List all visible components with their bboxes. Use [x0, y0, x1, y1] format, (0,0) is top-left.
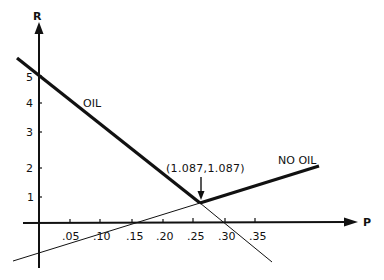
- no-oil-label: NO OIL: [278, 154, 317, 167]
- y-tick-labels: 1 2 3 4 5: [26, 71, 34, 204]
- x-axis: [23, 222, 346, 223]
- x-tick-label: .15: [126, 230, 144, 243]
- y-tick-label: 1: [27, 191, 34, 204]
- x-tick-label: .35: [249, 230, 267, 243]
- x-tick-label: .20: [156, 230, 174, 243]
- x-axis-arrow-icon: [344, 218, 358, 227]
- y-tick-label: 4: [26, 97, 33, 110]
- intersection-label: (1.087,1.087): [166, 162, 245, 175]
- oil-label: OIL: [83, 97, 102, 110]
- x-axis-label: P: [363, 216, 371, 229]
- arrow-down-icon: [198, 191, 205, 200]
- chart-canvas: R P 1 2 3 4 5 .05 .10 .15 .20 .25 .30 .3…: [0, 0, 384, 280]
- y-axis-label: R: [33, 10, 42, 23]
- x-tick-label: .30: [218, 230, 236, 243]
- x-tick-label: .25: [187, 230, 205, 243]
- y-axis-arrow-icon: [35, 22, 44, 34]
- oil-line: [17, 58, 200, 203]
- y-tick-label: 3: [26, 126, 33, 139]
- y-tick-label: 5: [26, 71, 33, 84]
- y-tick-label: 2: [26, 162, 33, 175]
